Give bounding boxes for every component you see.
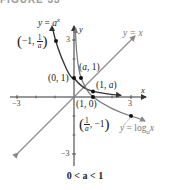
point-a-1 (79, 76, 83, 80)
point-label-inv-a-neg1: (1a, −1) (79, 117, 110, 132)
x-tick-neg3: −3 (12, 100, 21, 108)
exp-curve-label: y = ax (38, 17, 60, 29)
point-label-neg1-inv-a: (−1, 1a) (17, 34, 48, 49)
identity-label: y = x (123, 29, 143, 39)
point-label-0-1: (0, 1) (48, 74, 69, 84)
x-tick-3: 3 (128, 100, 132, 108)
y-tick-neg3: −3 (61, 150, 70, 158)
point-label-1-0: (1, 0) (76, 100, 97, 110)
point-0-1 (72, 76, 76, 80)
point-label-a-1: (a, 1) (79, 63, 100, 73)
point-1-a (91, 90, 95, 94)
point-neg1-inv-a (54, 39, 58, 43)
y-axis-label: y (79, 25, 83, 34)
y-tick-3: 3 (66, 36, 70, 44)
x-axis-label: x (141, 86, 145, 95)
point-label-1-a: (1, a) (96, 81, 117, 91)
figure-caption: 0 < a < 1 (0, 170, 170, 181)
log-curve-label: y = logax (120, 124, 154, 135)
graph-canvas (0, 0, 170, 190)
